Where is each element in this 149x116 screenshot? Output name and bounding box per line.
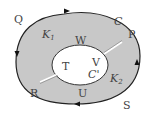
label-C: C <box>114 15 123 28</box>
label-T: T <box>62 60 70 73</box>
label-C-prime: C' <box>88 68 99 81</box>
label-U: U <box>78 87 87 100</box>
label-Q: Q <box>14 13 23 26</box>
label-W: W <box>75 34 87 47</box>
label-S: S <box>123 99 131 112</box>
annulus-diagram: Q P R S C W T V C' U K1 K2 <box>0 0 149 116</box>
label-P: P <box>128 28 136 41</box>
label-R: R <box>30 87 39 100</box>
